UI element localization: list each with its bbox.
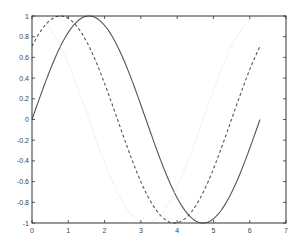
x-tick-label: 5: [211, 227, 215, 234]
x-tick-label: 7: [284, 227, 288, 234]
y-tick-label: -0.4: [17, 157, 29, 164]
y-tick-label: 0: [25, 116, 29, 123]
y-tick-label: 0.2: [19, 95, 29, 102]
y-tick-label: 0.8: [19, 33, 29, 40]
x-tick-label: 2: [103, 227, 107, 234]
line-chart: 01234567-1-0.8-0.6-0.4-0.200.20.40.60.81: [0, 0, 303, 245]
plot-background: [32, 16, 286, 223]
x-tick-label: 4: [175, 227, 179, 234]
y-tick-label: 1: [25, 13, 29, 20]
y-tick-label: -1: [23, 220, 29, 227]
plot-area: [32, 16, 286, 223]
y-tick-label: 0.4: [19, 75, 29, 82]
y-tick-label: -0.6: [17, 178, 29, 185]
x-tick-label: 6: [248, 227, 252, 234]
x-tick-label: 1: [66, 227, 70, 234]
y-tick-label: 0.6: [19, 54, 29, 61]
y-tick-label: -0.2: [17, 137, 29, 144]
x-tick-label: 0: [30, 227, 34, 234]
x-tick-label: 3: [139, 227, 143, 234]
y-tick-label: -0.8: [17, 199, 29, 206]
